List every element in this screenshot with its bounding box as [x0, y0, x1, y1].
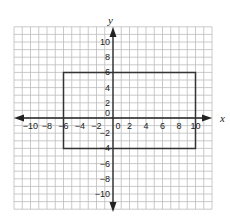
y-tick-label: 10 — [100, 37, 110, 47]
y-tick-label: −2 — [100, 128, 110, 138]
y-tick-label: −4 — [100, 143, 110, 153]
y-tick-label: 8 — [105, 52, 110, 62]
y-tick-label: −8 — [100, 174, 110, 184]
y-axis-label: y — [107, 14, 113, 26]
x-axis-right-arrow-icon — [202, 115, 212, 122]
y-tick-label: 2 — [105, 98, 110, 108]
y-tick-label: 6 — [105, 67, 110, 77]
x-tick-label: 2 — [127, 121, 132, 131]
x-tick-label: −8 — [42, 121, 52, 131]
x-tick-label: 8 — [176, 121, 181, 131]
x-axis-label: x — [219, 112, 225, 124]
y-tick-label: 4 — [105, 83, 110, 93]
y-axis-up-arrow-icon — [110, 27, 117, 37]
x-tick-label: 10 — [190, 121, 200, 131]
x-tick-label-zero: 0 — [115, 121, 120, 131]
axes — [14, 27, 212, 212]
y-tick-label: −6 — [100, 159, 110, 169]
x-tick-label: −6 — [58, 121, 68, 131]
y-tick-label: −10 — [95, 189, 110, 199]
x-tick-label: 4 — [143, 121, 148, 131]
origin-label: 0 — [105, 108, 110, 118]
x-tick-label: 6 — [160, 121, 165, 131]
coordinate-plane: −10−8−6−4−224681000108642−2−4−6−8−10 x y — [0, 0, 230, 224]
y-axis-down-arrow-icon — [110, 202, 117, 212]
x-tick-label: −4 — [75, 121, 85, 131]
x-tick-label: −10 — [23, 121, 38, 131]
